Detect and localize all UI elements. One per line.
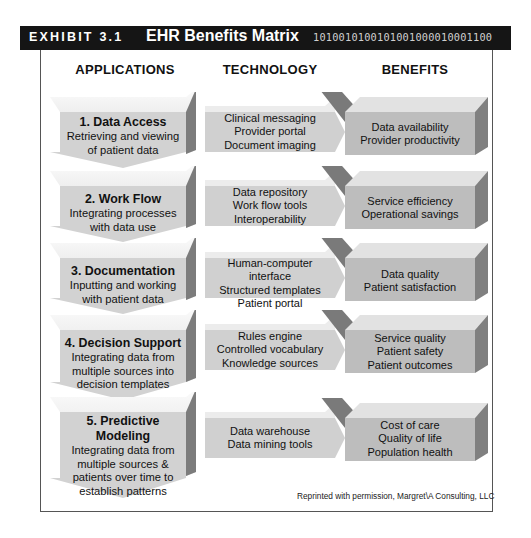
technology-item: Patient portal <box>206 297 334 310</box>
benefit-item: Population health <box>346 446 474 459</box>
application-title: 5. Predictive Modeling <box>60 414 186 444</box>
application-box-data-access: 1. Data Access Retrieving and viewing of… <box>50 92 196 172</box>
exhibit-title-bar: EXHIBIT 3.1 EHR Benefits Matrix 10100101… <box>20 26 511 50</box>
benefit-item: Data quality <box>346 268 474 281</box>
technology-item: Data warehouse <box>206 425 334 438</box>
application-line: Integrating processes <box>60 207 186 221</box>
technology-item: Clinical messaging <box>206 112 334 125</box>
benefit-item: Service efficiency <box>346 195 474 208</box>
technology-arrow-2: Data repository Work flow tools Interope… <box>200 166 355 236</box>
application-line: Inputting and working <box>60 279 186 293</box>
application-box-predictive-modeling: 5. Predictive Modeling Integrating data … <box>50 392 196 502</box>
technology-item: Human-computer interface <box>206 257 334 284</box>
benefit-item: Data availability <box>346 121 474 134</box>
application-line: multiple sources into <box>60 365 186 379</box>
technology-arrow-4: Rules engine Controlled vocabulary Knowl… <box>200 310 355 380</box>
application-line: Integrating data from <box>60 444 186 458</box>
benefit-item: Patient satisfaction <box>346 281 474 294</box>
column-header-technology: TECHNOLOGY <box>205 62 335 77</box>
application-box-documentation: 3. Documentation Inputting and working w… <box>50 238 196 318</box>
application-box-work-flow: 2. Work Flow Integrating processes with … <box>50 166 196 246</box>
technology-arrow-5: Data warehouse Data mining tools <box>200 398 355 468</box>
application-line: patients over time to <box>60 471 186 485</box>
column-header-applications: APPLICATIONS <box>60 62 190 77</box>
technology-item: Document imaging <box>206 139 334 152</box>
application-line: establish patterns <box>60 485 186 499</box>
application-line: with data use <box>60 221 186 235</box>
benefit-item: Operational savings <box>346 208 474 221</box>
application-box-decision-support: 4. Decision Support Integrating data fro… <box>50 310 196 400</box>
benefit-box-4: Service quality Patient safety Patient o… <box>340 310 490 380</box>
benefit-box-2: Service efficiency Operational savings <box>340 166 490 236</box>
benefit-box-5: Cost of care Quality of life Population … <box>340 398 490 468</box>
benefit-item: Provider productivity <box>346 134 474 147</box>
technology-item: Work flow tools <box>206 199 334 212</box>
benefit-item: Quality of life <box>346 432 474 445</box>
application-line: multiple sources & <box>60 458 186 472</box>
binary-decoration: 1010010100101001000010001100 <box>313 31 492 43</box>
benefit-box-3: Data quality Patient satisfaction <box>340 238 490 308</box>
benefit-item: Service quality <box>346 332 474 345</box>
application-line: Integrating data from <box>60 351 186 365</box>
column-header-benefits: BENEFITS <box>350 62 480 77</box>
technology-item: Knowledge sources <box>206 357 334 370</box>
technology-item: Interoperability <box>206 213 334 226</box>
application-line: Retrieving and viewing <box>60 130 186 144</box>
benefit-item: Patient safety <box>346 345 474 358</box>
technology-item: Rules engine <box>206 330 334 343</box>
technology-arrow-3: Human-computer interface Structured temp… <box>200 238 355 308</box>
application-line: decision templates <box>60 378 186 392</box>
application-title: 3. Documentation <box>60 264 186 279</box>
technology-item: Structured templates <box>206 284 334 297</box>
technology-item: Provider portal <box>206 125 334 138</box>
application-title: 4. Decision Support <box>60 336 186 351</box>
benefit-box-1: Data availability Provider productivity <box>340 92 490 162</box>
application-title: 1. Data Access <box>60 115 186 130</box>
application-line: of patient data <box>60 144 186 158</box>
benefit-item: Cost of care <box>346 419 474 432</box>
application-title: 2. Work Flow <box>60 192 186 207</box>
technology-item: Controlled vocabulary <box>206 343 334 356</box>
exhibit-label: EXHIBIT 3.1 <box>29 30 123 44</box>
benefit-item: Patient outcomes <box>346 359 474 372</box>
technology-item: Data mining tools <box>206 438 334 451</box>
application-line: with patient data <box>60 293 186 307</box>
permission-credit: Reprinted with permission, Margret\A Con… <box>297 491 494 501</box>
technology-arrow-1: Clinical messaging Provider portal Docum… <box>200 92 355 162</box>
exhibit-title: EHR Benefits Matrix <box>146 27 299 45</box>
technology-item: Data repository <box>206 186 334 199</box>
